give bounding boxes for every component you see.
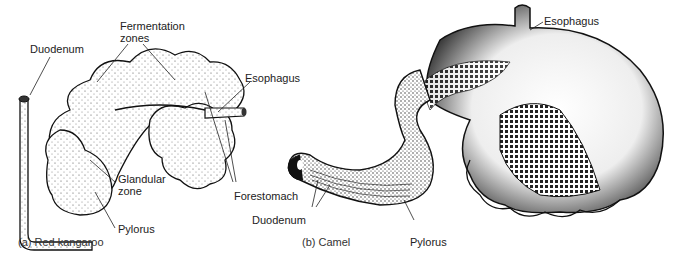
label-camel-esophagus: Esophagus <box>544 15 599 27</box>
label-fermentation-zones-line2: zones <box>120 32 149 44</box>
label-forestomach: Forestomach <box>234 190 298 202</box>
kangaroo-stomach-drawing <box>19 49 247 250</box>
label-kangaroo-duodenum: Duodenum <box>30 43 84 55</box>
illustration <box>0 0 685 267</box>
label-fermentation-zones-line1: Fermentation <box>120 20 185 32</box>
label-kangaroo-pylorus: Pylorus <box>118 223 155 235</box>
label-glandular-zone-line1: Glandular <box>118 173 166 185</box>
label-camel-duodenum: Duodenum <box>252 214 306 226</box>
stomach-comparison-figure: Duodenum Fermentation zones Esophagus Gl… <box>0 0 685 267</box>
caption-red-kangaroo: (a) Red kangaroo <box>18 236 104 248</box>
camel-stomach-drawing <box>288 5 663 217</box>
label-kangaroo-esophagus: Esophagus <box>245 72 300 84</box>
label-camel-pylorus: Pylorus <box>410 236 447 248</box>
label-glandular-zone-line2: zone <box>118 185 142 197</box>
caption-camel: (b) Camel <box>302 236 350 248</box>
